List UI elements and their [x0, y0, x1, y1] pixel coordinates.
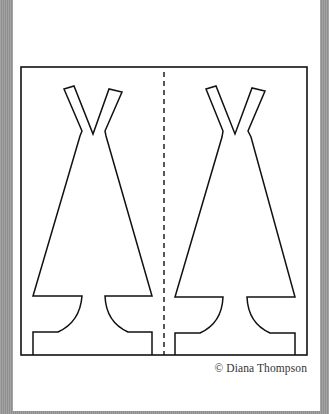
teepee-left-outline: [33, 86, 152, 355]
teepee-template-drawing: [0, 0, 329, 414]
teepee-right-outline: [175, 86, 295, 355]
copyright-credit: © Diana Thompson: [200, 362, 307, 374]
